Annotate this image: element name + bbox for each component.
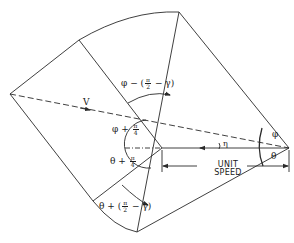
theta-plus-label: θ + π4 bbox=[110, 155, 137, 168]
phi-minus-label: φ − (π2 − γ) bbox=[121, 77, 174, 90]
lower-left-edge bbox=[10, 94, 93, 201]
top-right-edge bbox=[179, 12, 289, 148]
theta-label: θ bbox=[271, 152, 276, 161]
v-label: V bbox=[83, 98, 90, 107]
diagram: V η φ θ UNIT SPEED φ − (π2 − γ) φ + π4 θ… bbox=[0, 0, 294, 243]
phi-minus-arc bbox=[128, 94, 170, 103]
eta-label: η bbox=[223, 140, 228, 148]
phi-label: φ bbox=[272, 130, 278, 139]
top-arc bbox=[79, 12, 179, 40]
v-dashed-line bbox=[10, 94, 289, 148]
upper-left-edge bbox=[10, 40, 79, 94]
eta-arc bbox=[219, 143, 220, 149]
phi-theta-arc bbox=[259, 128, 263, 166]
phi-plus-label: φ + π4 bbox=[112, 123, 140, 136]
unit-speed-label: UNIT SPEED bbox=[208, 161, 248, 177]
radius-right bbox=[137, 12, 179, 232]
theta-plus-gamma-label: θ + (π2 − γ) bbox=[99, 200, 151, 213]
